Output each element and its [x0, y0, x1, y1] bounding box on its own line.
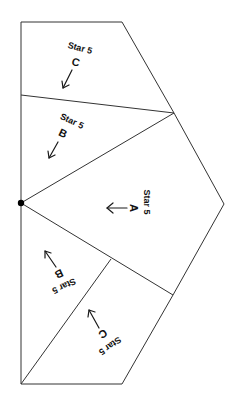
- piece-c-top-letter: C: [71, 55, 82, 69]
- seam-a-b-lower: [21, 203, 173, 295]
- edge-right: [122, 22, 224, 384]
- piece-a-label: Star 5: [142, 189, 152, 214]
- piece-c-bottom: C Star 5: [88, 310, 123, 357]
- piece-a-letter: A: [128, 204, 140, 212]
- piece-b-bottom: B Star 5: [45, 251, 77, 296]
- arrow-left-icon: [107, 203, 127, 213]
- piece-c-bottom-letter: C: [96, 327, 109, 341]
- seam-c-b: [21, 95, 174, 113]
- arrow-down-left-icon: [62, 70, 72, 88]
- piece-a: Star 5 A: [107, 189, 152, 214]
- piece-b-top-letter: B: [57, 126, 69, 140]
- piece-c-top: Star 5 C: [62, 40, 93, 88]
- center-point-dot: [18, 200, 24, 206]
- arrow-down-left-icon: [48, 142, 58, 158]
- pattern-diagram: Star 5 C Star 5 B Star 5 A B Star 5: [0, 0, 238, 413]
- piece-c-top-label: Star 5: [67, 40, 94, 56]
- outline: [21, 22, 224, 384]
- piece-b-top: Star 5 B: [48, 111, 85, 158]
- piece-c-bottom-label: Star 5: [97, 335, 123, 358]
- arrow-up-left-icon: [45, 251, 56, 267]
- piece-b-bottom-letter: B: [53, 267, 65, 281]
- arrow-up-left-icon: [88, 310, 99, 328]
- seams: [21, 95, 174, 384]
